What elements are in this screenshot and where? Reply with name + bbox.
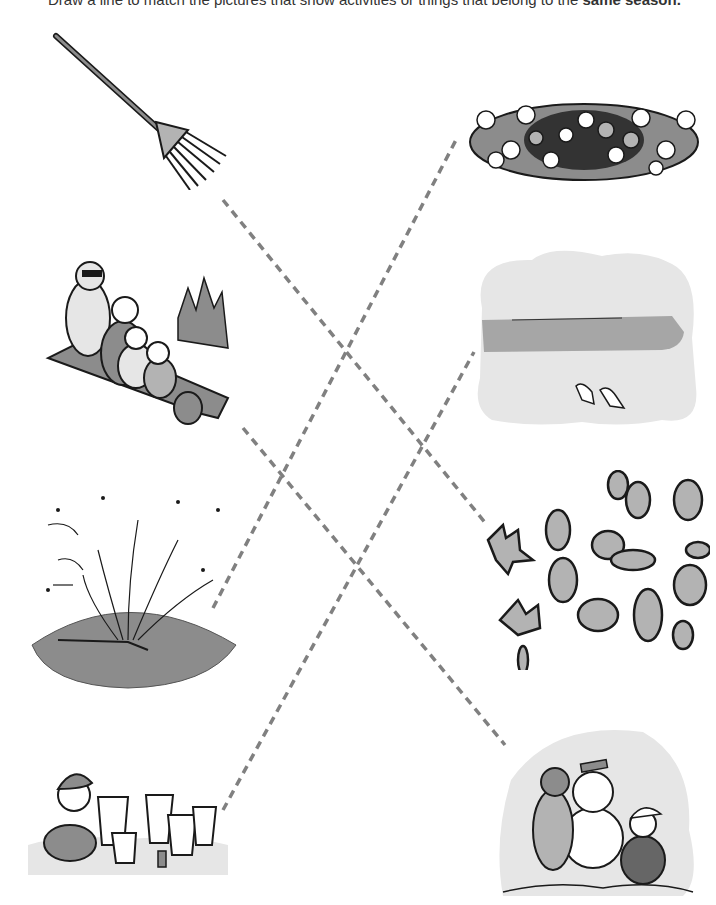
sandcastle-picture[interactable] — [28, 755, 228, 875]
sledding-picture[interactable] — [28, 248, 238, 433]
match-line-sprinkler-flowers — [213, 140, 456, 608]
instruction-prefix: Draw a line to match the pictures that s… — [48, 0, 578, 8]
snowman-children-icon — [493, 720, 703, 900]
sledding-family-icon — [28, 248, 238, 433]
sprinkler-picture[interactable] — [28, 480, 243, 690]
match-line-sandcastle-beach — [223, 352, 474, 810]
instruction-text: Draw a line to match the pictures that s… — [48, 0, 681, 8]
instruction-emphasis: same season. — [582, 0, 680, 8]
match-line-sledding-snowman — [243, 428, 505, 745]
rake-picture[interactable] — [40, 30, 240, 190]
lawn-sprinkler-icon — [28, 480, 243, 690]
beach-seagulls-icon — [472, 248, 700, 426]
match-line-rake-leaves — [223, 200, 487, 525]
falling-leaves-icon — [478, 470, 710, 670]
flowering-bush-icon — [466, 90, 702, 186]
rake-icon — [40, 30, 240, 190]
beach-picture[interactable] — [472, 248, 700, 426]
leaves-picture[interactable] — [478, 470, 710, 670]
flowers-picture[interactable] — [466, 90, 702, 186]
snowman-picture[interactable] — [493, 720, 703, 900]
sandcastle-child-icon — [28, 755, 228, 875]
